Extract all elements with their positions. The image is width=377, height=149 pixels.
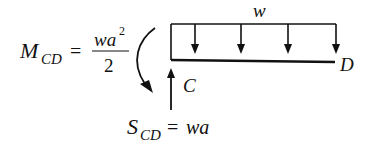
shear-arrow-icon [167, 68, 175, 110]
shear-equals: = [167, 116, 178, 138]
moment-denominator: 2 [104, 55, 114, 76]
moment-equals: = [70, 40, 81, 62]
load-arrow-icon [284, 24, 292, 54]
shear-symbol: S [127, 114, 138, 139]
moment-numerator: wa [94, 29, 116, 50]
load-arrow-icon [237, 24, 245, 54]
moment-symbol: M [19, 38, 40, 63]
load-label: w [253, 0, 266, 21]
load-arrow-icon [332, 24, 340, 54]
moment-numerator-exponent: 2 [119, 24, 125, 38]
shear-subscript: CD [140, 127, 161, 143]
shear-equation: S CD = wa [127, 114, 209, 143]
load-arrow-icon [191, 24, 199, 54]
moment-equation: M CD = wa 2 2 [19, 24, 129, 76]
shear-value: wa [186, 116, 209, 138]
beam-cd [171, 60, 335, 62]
free-body-diagram: w C D M CD = wa 2 2 S CD = wa [0, 0, 377, 149]
moment-subscript: CD [41, 51, 62, 67]
distributed-load [171, 24, 340, 60]
moment-arrow-icon [137, 28, 155, 93]
point-label-c: C [183, 75, 196, 96]
point-label-d: D [339, 54, 354, 75]
